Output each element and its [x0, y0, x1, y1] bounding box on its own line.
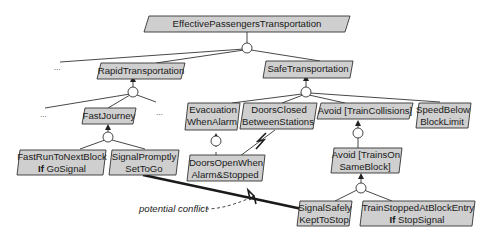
- ellipsis: ...: [156, 108, 163, 117]
- and-node: [353, 128, 363, 138]
- and-node: [356, 183, 366, 193]
- and-node: [128, 87, 138, 97]
- goal-signal-promptly-set-to-go[interactable]: SignalPromptly SetToGo: [109, 150, 179, 175]
- svg-text:SameBlock]: SameBlock]: [339, 161, 390, 172]
- goal-safe-transportation[interactable]: SafeTransportation: [263, 61, 353, 78]
- svg-text:SetToGo: SetToGo: [125, 163, 162, 174]
- svg-text:EffectivePassengersTransportat: EffectivePassengersTransportation: [173, 18, 322, 29]
- svg-text:Avoid [TrainsOn: Avoid [TrainsOn: [332, 149, 400, 160]
- svg-text:If GoSignal: If GoSignal: [38, 163, 86, 174]
- svg-text:If StopSignal: If StopSignal: [390, 214, 445, 225]
- goal-signal-safely-kept-to-stop[interactable]: SignalSafely KeptToStop: [297, 201, 352, 226]
- svg-text:BlockLimit: BlockLimit: [420, 116, 464, 127]
- svg-text:RapidTransportation: RapidTransportation: [98, 65, 185, 76]
- goal-doors-closed-between-stations[interactable]: DoorsClosed BetweenStations: [240, 103, 317, 129]
- svg-text:SignalSafely: SignalSafely: [298, 202, 352, 213]
- and-node: [301, 87, 311, 97]
- svg-text:SignalPromptly: SignalPromptly: [112, 151, 177, 162]
- svg-text:SafeTransportation: SafeTransportation: [267, 63, 348, 74]
- svg-text:KeptToStop: KeptToStop: [299, 214, 349, 225]
- svg-text:DoorsClosed: DoorsClosed: [251, 104, 306, 115]
- potential-conflict-label: potential conflict: [138, 203, 208, 214]
- goal-diagram: ... ... ... EffectivePassengersTransport…: [0, 0, 490, 239]
- and-node: [103, 132, 113, 142]
- condition: GoSignal: [44, 163, 86, 174]
- and-node: [211, 136, 221, 146]
- svg-text:TrainStoppedAtBlockEntry: TrainStoppedAtBlockEntry: [362, 202, 474, 213]
- ellipsis: ...: [54, 63, 61, 72]
- svg-text:FastRunToNextBlock: FastRunToNextBlock: [17, 151, 107, 162]
- goal-effective-passengers-transportation[interactable]: EffectivePassengersTransportation: [144, 16, 350, 32]
- goal-avoid-train-collisions[interactable]: Avoid [TrainCollisions]: [317, 103, 413, 119]
- svg-text:Avoid [TrainCollisions]: Avoid [TrainCollisions]: [318, 105, 412, 116]
- goal-avoid-trains-on-same-block[interactable]: Avoid [TrainsOn SameBlock]: [331, 148, 402, 173]
- svg-text:Evacuation: Evacuation: [189, 104, 236, 115]
- goal-rapid-transportation[interactable]: RapidTransportation: [97, 63, 185, 79]
- svg-text:DoorsOpenWhen: DoorsOpenWhen: [189, 157, 263, 168]
- svg-text:WhenAlarm: WhenAlarm: [187, 116, 237, 127]
- goal-speed-below-block-limit[interactable]: SpeedBelow BlockLimit: [416, 103, 471, 128]
- goal-fast-journey[interactable]: FastJourney: [82, 108, 136, 124]
- condition: StopSignal: [395, 214, 444, 225]
- svg-text:BetweenStations: BetweenStations: [242, 116, 314, 127]
- svg-text:SpeedBelow: SpeedBelow: [416, 104, 470, 115]
- ellipsis: ...: [40, 110, 47, 119]
- svg-text:FastJourney: FastJourney: [83, 110, 136, 121]
- goal-train-stopped-at-block-entry[interactable]: TrainStoppedAtBlockEntry If StopSignal: [360, 201, 475, 226]
- goal-fast-run-to-next-block[interactable]: FastRunToNextBlock If GoSignal: [17, 150, 107, 175]
- and-node: [242, 43, 252, 53]
- goal-doors-open-when-alarm-stopped[interactable]: DoorsOpenWhen Alarm&Stopped: [187, 155, 265, 181]
- goal-evacuation-when-alarm[interactable]: Evacuation WhenAlarm: [185, 103, 240, 130]
- svg-text:Alarm&Stopped: Alarm&Stopped: [191, 169, 258, 180]
